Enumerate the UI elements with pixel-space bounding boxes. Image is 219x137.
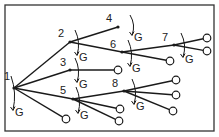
g-label: G (185, 53, 194, 65)
tree-edge (124, 81, 172, 91)
g-label: G (132, 62, 141, 74)
node-label-5: 5 (60, 84, 66, 96)
node-label-2: 2 (58, 27, 64, 39)
terminal-node (169, 107, 177, 115)
g-label: G (79, 78, 88, 90)
node-label-4: 4 (106, 12, 112, 24)
node-label-7: 7 (162, 31, 168, 43)
terminal-node (116, 105, 124, 113)
terminal-node (114, 66, 122, 74)
terminal-node (166, 57, 174, 65)
tree-edges (12, 25, 203, 119)
decision-node-6 (120, 50, 123, 53)
node-label-1: 1 (4, 70, 10, 82)
decision-node-8 (122, 89, 125, 92)
decision-node-5 (71, 97, 74, 100)
decision-node-3 (68, 68, 71, 71)
terminal-node (172, 91, 180, 99)
tree-edge (122, 52, 166, 60)
terminal-node (203, 47, 211, 55)
terminal-node (203, 34, 211, 42)
terminal-node (115, 117, 123, 125)
g-label: G (15, 106, 24, 118)
g-label: G (79, 51, 88, 63)
node-label-3: 3 (60, 56, 66, 68)
terminal-node (62, 115, 70, 123)
g-label: G (136, 100, 145, 112)
decision-arrows (11, 15, 186, 114)
tree-edge (174, 45, 203, 50)
terminal-node (172, 76, 180, 84)
tree-edge (174, 39, 203, 45)
arrow-icon (11, 76, 15, 110)
decision-node-7 (172, 43, 175, 46)
g-label: G (80, 109, 89, 121)
tree-edge (73, 91, 124, 99)
node-label-8: 8 (112, 77, 118, 89)
game-tree-diagram: G1G2G3G4G5G6G7G8 (0, 0, 219, 137)
decision-node-4 (116, 25, 119, 28)
g-label: G (134, 31, 143, 43)
node-label-6: 6 (110, 38, 116, 50)
decision-node-2 (68, 40, 71, 43)
